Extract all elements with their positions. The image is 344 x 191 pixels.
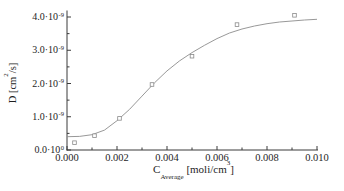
y-tick-label: 1.0·10-9 — [0, 111, 64, 124]
x-axis-unit-close: ] — [230, 163, 234, 175]
y-tick-label: 4.0·10-9 — [0, 11, 64, 24]
y-tick-exponent: -9 — [59, 110, 64, 117]
data-point-marker — [150, 83, 154, 87]
data-point-marker — [118, 117, 122, 121]
x-axis-unit: [moli/cm — [184, 163, 227, 175]
y-tick-exponent: -9 — [59, 77, 64, 84]
x-tick-label: 0.000 — [45, 152, 89, 164]
y-tick-mantissa: 1.0·10 — [32, 111, 58, 122]
data-point-marker — [235, 23, 239, 27]
x-tick-label: 0.002 — [95, 152, 139, 164]
y-axis-title-post: /s] — [7, 63, 18, 74]
y-tick-mantissa: 2.0·10 — [32, 78, 58, 89]
data-point-marker — [73, 141, 77, 145]
y-tick-exponent: -9 — [59, 11, 64, 18]
x-tick-label: 0.004 — [145, 152, 189, 164]
x-axis-subscript: Average — [160, 173, 183, 181]
data-point-marker — [93, 134, 97, 138]
data-point-marker — [293, 14, 297, 18]
fit-curve-path — [67, 19, 317, 136]
x-tick-label: 0.006 — [195, 152, 239, 164]
y-tick-label: 3.0·10-9 — [0, 44, 64, 57]
y-tick-label: 2.0·10-9 — [0, 78, 64, 91]
y-axis-title-exponent: 2 — [2, 73, 10, 77]
data-point-marker — [190, 54, 194, 58]
y-tick-mantissa: 4.0·10 — [32, 11, 58, 22]
x-axis-title: CAverage [moli/cm3] — [67, 162, 320, 178]
y-tick-mantissa: 3.0·10 — [32, 44, 58, 55]
diffusion-vs-concentration-chart: D [cm2/s] CAverage [moli/cm3] 0.0·1001.0… — [0, 0, 344, 191]
y-tick-exponent: 0 — [61, 144, 64, 151]
y-tick-exponent: -9 — [59, 44, 64, 51]
x-tick-label: 0.008 — [245, 152, 289, 164]
x-tick-label: 0.010 — [295, 152, 339, 164]
